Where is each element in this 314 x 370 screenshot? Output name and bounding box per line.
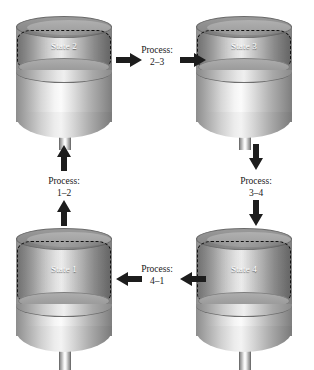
process-3-4-caption: Process: 3–4 <box>233 176 279 199</box>
piston-cylinder-state-1: State 1 <box>12 224 116 370</box>
process-2-3-caption: Process: 2–3 <box>134 45 180 68</box>
process-4-1-caption: Process: 4–1 <box>134 264 180 287</box>
state-label: State 3 <box>192 41 296 51</box>
cycle-diagram: State 2 State 3 State 1 <box>0 0 314 370</box>
state-label: State 2 <box>12 41 116 51</box>
cylinder-bottom <box>196 112 292 138</box>
process-2-3-endpoints: 2–3 <box>134 57 180 69</box>
process-1-2-caption: Process: 1–2 <box>41 176 87 199</box>
piston-cylinder-state-2: State 2 <box>12 12 116 162</box>
arrow-up-icon <box>57 145 71 171</box>
arrow-right-icon <box>180 53 206 67</box>
process-1-2-label: Process: <box>48 176 80 186</box>
piston-cylinder-state-4: State 4 <box>192 224 296 370</box>
process-1-2-endpoints: 1–2 <box>41 188 87 200</box>
process-4-1-label: Process: <box>141 264 173 274</box>
process-3-4-endpoints: 3–4 <box>233 188 279 200</box>
piston-cylinder-state-3: State 3 <box>192 12 296 162</box>
process-3-4-label: Process: <box>240 176 272 186</box>
arrow-up-icon <box>57 200 71 226</box>
process-2-3-label: Process: <box>141 45 173 55</box>
arrow-down-icon <box>249 144 263 170</box>
state-label: State 4 <box>192 264 296 274</box>
arrow-down-icon <box>249 200 263 226</box>
cylinder-bottom <box>16 112 112 138</box>
state-label: State 1 <box>12 264 116 274</box>
arrow-left-icon <box>180 272 206 286</box>
process-4-1-endpoints: 4–1 <box>134 276 180 288</box>
cylinder-bottom <box>16 326 112 352</box>
cylinder-bottom <box>196 326 292 352</box>
